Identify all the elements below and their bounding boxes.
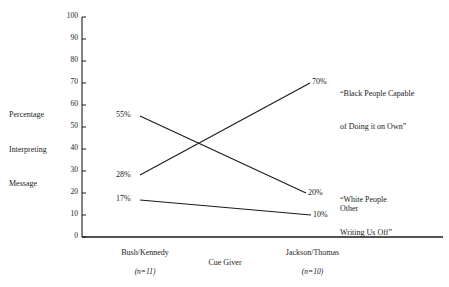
data-label-28-percent: 28%	[116, 170, 131, 179]
series-line-white-people	[140, 116, 306, 193]
x-category-label-jackson-thomas: Jackson/Thomas	[265, 248, 360, 257]
data-label-10-percent: 10%	[313, 210, 328, 219]
series-label-black-people-line-2: of Doing it on Own”	[340, 121, 414, 132]
line-chart: 100 90 80 70 60 50 40 30 20 10 0 Percent…	[0, 0, 449, 287]
y-axis-title-line-1: Percentage	[9, 109, 47, 121]
y-tick-label-60: 60	[56, 100, 78, 109]
series-label-black-people-line-1: “Black People Capable	[340, 88, 414, 99]
series-label-white-people-line-2: Writing Us Off”	[340, 227, 392, 238]
series-line-other	[140, 200, 311, 215]
y-tick-label-10: 10	[56, 210, 78, 219]
data-label-20-percent: 20%	[308, 188, 323, 197]
x-category-label-bush-kennedy: Bush/Kennedy	[100, 248, 190, 257]
x-category-note-jackson-thomas: (n=10)	[265, 268, 360, 277]
y-tick-label-80: 80	[56, 56, 78, 65]
y-axis-title-line-3: Message	[9, 178, 47, 190]
x-category-note-bush-kennedy: (n=11)	[100, 268, 190, 277]
y-tick-label-50: 50	[56, 122, 78, 131]
data-label-70-percent: 70%	[312, 77, 327, 86]
y-tick-label-70: 70	[56, 78, 78, 87]
x-axis-title: Cue Giver	[185, 258, 265, 267]
y-tick-label-30: 30	[56, 166, 78, 175]
y-tick-label-20: 20	[56, 188, 78, 197]
y-tick-label-0: 0	[56, 232, 78, 241]
y-axis-title: Percentage Interpreting Message	[9, 86, 47, 213]
series-label-black-people: “Black People Capable of Doing it on Own…	[340, 66, 414, 154]
data-label-55-percent: 55%	[116, 110, 131, 119]
y-axis-title-line-2: Interpreting	[9, 144, 47, 156]
y-axis-ticks	[82, 17, 86, 237]
series-label-white-people: “White People Writing Us Off”	[340, 172, 392, 260]
data-label-17-percent: 17%	[116, 194, 131, 203]
series-line-black-people	[140, 83, 310, 175]
series-label-other: Other	[340, 203, 358, 214]
y-tick-label-40: 40	[56, 144, 78, 153]
y-tick-label-100: 100	[56, 12, 78, 21]
y-tick-label-90: 90	[56, 34, 78, 43]
